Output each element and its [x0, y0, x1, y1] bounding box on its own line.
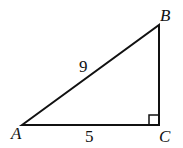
vertex-c-label: C: [159, 127, 171, 146]
triangle-diagram: 9 5 A B C: [0, 0, 183, 148]
side-ab-label: 9: [79, 57, 88, 76]
vertex-b-label: B: [160, 6, 171, 25]
vertex-a-label: A: [10, 124, 22, 143]
triangle-abc: [22, 25, 159, 125]
side-ac-label: 5: [85, 127, 94, 146]
right-angle-marker: [149, 115, 159, 125]
